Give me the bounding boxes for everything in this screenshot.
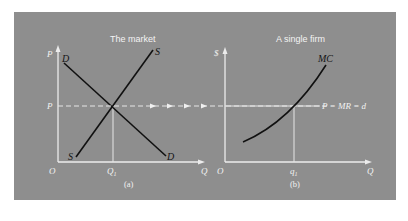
- price-line-label: P = MR = d: [321, 101, 366, 111]
- panel-a-caption: (a): [124, 179, 134, 189]
- panel-b-origin-label: O: [217, 166, 224, 176]
- panel-b-title: A single firm: [276, 34, 325, 44]
- demand-label-bottom: D: [166, 151, 175, 162]
- panel-a-y-axis-label: P: [46, 49, 53, 59]
- perfect-competition-diagram: The market P D S S D P O Q1 Q (a) A sing…: [0, 0, 408, 221]
- price-label: P: [46, 101, 53, 111]
- panel-b-x-axis-label: Q: [367, 166, 374, 176]
- panel-a-title: The market: [110, 34, 156, 44]
- supply-label-top: S: [155, 46, 160, 57]
- supply-label-bottom: S: [68, 151, 73, 162]
- panel-a-x-axis-label: Q: [201, 166, 208, 176]
- panel-b-caption: (b): [290, 179, 300, 189]
- mc-label: MC: [317, 53, 333, 64]
- demand-label-top: D: [61, 53, 70, 64]
- panel-a-origin-label: O: [49, 166, 56, 176]
- panel-b-y-axis-label: $: [214, 48, 219, 58]
